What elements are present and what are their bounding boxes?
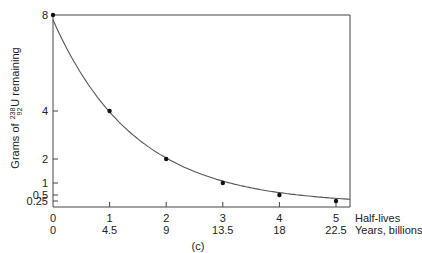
data-point [334, 199, 338, 203]
x-axis-label-half-lives: Half-lives [355, 212, 401, 224]
x-tick-label-half-lives: 5 [333, 212, 339, 224]
isotope-notation: 238 92 [9, 108, 23, 120]
plot-frame [53, 15, 350, 207]
x-tick-label-years: 4.5 [102, 224, 117, 236]
mass-number: 238 [9, 108, 16, 120]
axes-frame [53, 15, 350, 207]
y-axis-label-container: Grams of 238 92 U remaining [0, 0, 30, 253]
element-symbol: U [9, 99, 21, 107]
data-point [221, 181, 225, 185]
y-tick-label: 4 [42, 105, 48, 117]
x-tick-label-half-lives: 2 [163, 212, 169, 224]
atomic-number: 92 [16, 108, 23, 120]
x-tick-label-half-lives: 1 [107, 212, 113, 224]
x-tick-label-half-lives: 0 [50, 212, 56, 224]
x-tick-label-half-lives: 3 [220, 212, 226, 224]
x-tick-label-years: 13.5 [212, 224, 233, 236]
data-point [51, 13, 55, 17]
decay-chart: 84210.50.25 0014.529313.5418522.5 Half-l… [0, 0, 422, 253]
x-tick-label-years: 0 [50, 224, 56, 236]
ylabel-suffix: remaining [9, 47, 21, 95]
data-point [164, 157, 168, 161]
x-tick-label-years: 9 [163, 224, 169, 236]
x-tick-label-half-lives: 4 [276, 212, 282, 224]
x-tick-label-years: 18 [273, 224, 285, 236]
decay-curve [53, 20, 350, 200]
data-points [51, 13, 338, 203]
figure-caption: (c) [192, 240, 205, 252]
data-point [107, 109, 111, 113]
y-tick-label: 8 [42, 9, 48, 21]
y-axis-label: Grams of 238 92 U remaining [9, 47, 23, 168]
ylabel-prefix: Grams of [9, 123, 21, 168]
data-point [277, 193, 281, 197]
y-tick-label: 1 [42, 177, 48, 189]
x-axis-label-years: Years, billions [355, 224, 422, 236]
y-tick-label: 2 [42, 153, 48, 165]
x-tick-label-years: 22.5 [325, 224, 346, 236]
